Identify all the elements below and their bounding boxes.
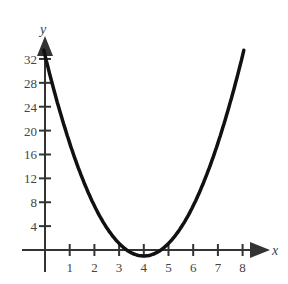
x-tick-label: 5 <box>165 260 172 275</box>
y-tick-label: 32 <box>24 52 37 67</box>
x-ticks: 12345678 <box>66 244 245 275</box>
parabola-curve <box>44 50 244 256</box>
y-tick-label: 20 <box>24 124 37 139</box>
x-tick-label: 8 <box>239 260 246 275</box>
x-tick-label: 2 <box>91 260 98 275</box>
y-tick-label: 28 <box>24 76 37 91</box>
x-tick-label: 4 <box>141 260 148 275</box>
x-tick-label: 3 <box>116 260 123 275</box>
y-tick-label: 16 <box>24 147 38 162</box>
x-tick-label: 6 <box>190 260 197 275</box>
chart: 12345678 48121620242832 x y <box>0 0 288 284</box>
y-ticks: 48121620242832 <box>24 52 51 234</box>
x-axis-label: x <box>271 243 279 258</box>
x-tick-label: 7 <box>215 260 222 275</box>
y-tick-label: 8 <box>31 195 38 210</box>
x-tick-label: 1 <box>66 260 73 275</box>
y-tick-label: 12 <box>24 171 37 186</box>
y-tick-label: 4 <box>31 219 38 234</box>
y-tick-label: 24 <box>24 100 38 115</box>
y-axis-label: y <box>38 22 47 37</box>
